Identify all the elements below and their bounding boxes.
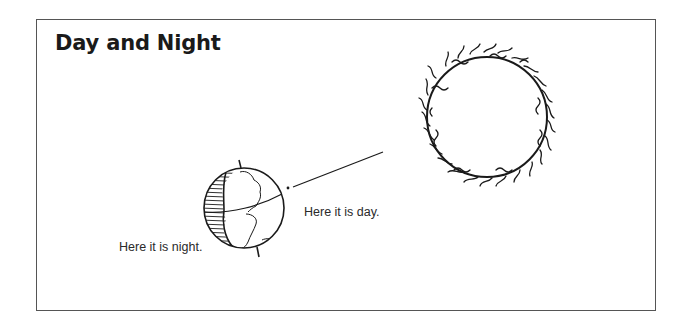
day-label: Here it is day. bbox=[304, 205, 380, 219]
sun-icon bbox=[419, 44, 555, 186]
sun-ray-line bbox=[293, 152, 383, 187]
diagram-illustration bbox=[0, 0, 690, 333]
earth-icon bbox=[200, 160, 284, 257]
night-label: Here it is night. bbox=[119, 240, 202, 254]
